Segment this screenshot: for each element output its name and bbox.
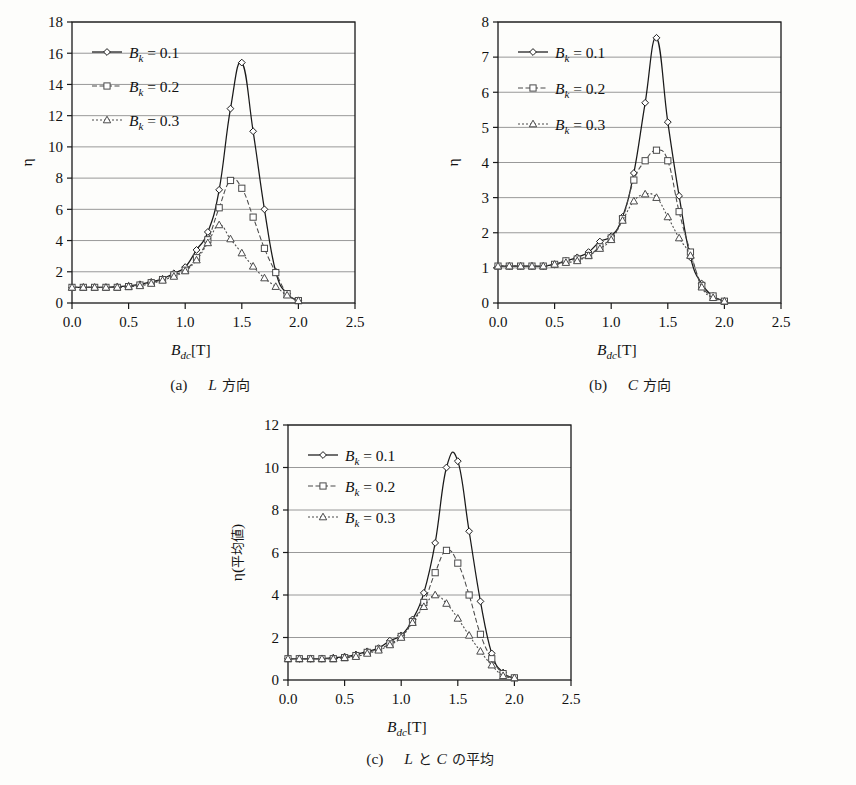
legend-item-bk02[interactable]: Bk = 0.2	[308, 478, 395, 498]
data-point-marker-triangle	[454, 615, 461, 622]
data-point-marker-diamond	[466, 528, 473, 535]
legend-label: Bk = 0.2	[129, 78, 179, 98]
x-axis-tick-label: 0.0	[63, 314, 82, 330]
x-axis: 0.00.51.01.52.02.5	[279, 680, 581, 707]
data-point-marker-triangle	[675, 234, 682, 241]
series-bk02	[495, 147, 728, 304]
y-axis: 024681012141618	[48, 14, 72, 311]
y-axis-tick-label: 12	[48, 108, 63, 124]
data-point-marker-diamond	[664, 119, 671, 126]
series-bk03	[494, 190, 728, 304]
legend: Bk = 0.1Bk = 0.2Bk = 0.3	[308, 447, 395, 529]
chart-a-svg: 0246810121416180.00.51.01.52.02.5Bdc[T]η…	[0, 0, 430, 370]
x-axis-tick-label: 1.0	[176, 314, 195, 330]
grid-lines	[498, 22, 781, 268]
x-axis-tick-label: 2.5	[562, 691, 581, 707]
data-point-marker-diamond	[477, 598, 484, 605]
x-axis-tick-label: 2.5	[346, 314, 365, 330]
data-point-marker-square	[443, 547, 449, 553]
data-point-marker-triangle	[238, 249, 245, 256]
data-point-marker-square	[239, 185, 245, 191]
y-axis-tick-label: 0	[482, 295, 490, 311]
legend-item-bk03[interactable]: Bk = 0.3	[308, 509, 395, 529]
legend-item-bk01[interactable]: Bk = 0.1	[518, 44, 605, 64]
data-point-marker-triangle	[272, 283, 279, 290]
legend-item-bk02[interactable]: Bk = 0.2	[92, 78, 179, 98]
caption-c-text-1: と	[418, 751, 432, 767]
caption-b-text: 方向	[643, 377, 671, 393]
data-point-marker-square	[653, 147, 659, 153]
legend-label: Bk = 0.1	[555, 44, 605, 64]
y-axis-tick-label: 14	[48, 77, 64, 93]
x-axis-tick-label: 1.0	[392, 691, 411, 707]
data-point-marker-square	[432, 570, 438, 576]
legend-item-bk03[interactable]: Bk = 0.3	[92, 112, 179, 132]
x-axis-title: Bdc[T]	[597, 341, 637, 361]
legend-item-bk03[interactable]: Bk = 0.3	[518, 116, 605, 136]
y-axis-tick-label: 2	[56, 264, 64, 280]
data-point-marker-diamond	[104, 49, 111, 56]
x-axis-title: Bdc[T]	[387, 718, 427, 738]
data-point-marker-triangle	[443, 600, 450, 607]
caption-c-variable-2: C	[436, 750, 448, 767]
y-axis-tick-label: 6	[482, 85, 490, 101]
y-axis-tick-label: 2	[482, 225, 490, 241]
y-axis-tick-label: 1	[482, 260, 490, 276]
legend-item-bk02[interactable]: Bk = 0.2	[518, 80, 605, 100]
x-axis-tick-label: 1.5	[232, 314, 251, 330]
caption-c: (c) L と C の平均	[270, 748, 590, 768]
chart-b-svg: 0123456780.00.51.01.52.02.5Bdc[T]ηBk = 0…	[426, 0, 856, 370]
x-axis-tick-label: 1.5	[658, 314, 677, 330]
plot-frame	[72, 22, 355, 303]
x-axis-tick-label: 2.5	[772, 314, 791, 330]
data-point-marker-square	[320, 483, 326, 489]
data-point-marker-square	[631, 177, 637, 183]
legend-item-bk01[interactable]: Bk = 0.1	[308, 447, 395, 467]
data-point-marker-diamond	[227, 105, 234, 112]
y-axis-title-text: η(平均値)	[228, 524, 246, 581]
x-axis-tick-label: 0.5	[335, 691, 354, 707]
y-axis-tick-label: 8	[272, 502, 280, 518]
data-point-marker-diamond	[432, 540, 439, 547]
y-axis-tick-label: 5	[482, 120, 490, 136]
series-group	[68, 59, 302, 304]
y-axis-title-text: η	[18, 158, 35, 166]
data-point-marker-square	[104, 83, 110, 89]
figure-root: 0246810121416180.00.51.01.52.02.5Bdc[T]η…	[0, 0, 856, 785]
y-axis-title: η	[18, 158, 35, 166]
y-axis-tick-label: 8	[56, 170, 64, 186]
caption-b-variable: C	[627, 376, 639, 393]
caption-a-variable: L	[207, 376, 218, 393]
x-axis-title: Bdc[T]	[171, 341, 211, 361]
y-axis-tick-label: 3	[482, 190, 490, 206]
data-point-marker-square	[466, 592, 472, 598]
grid-lines	[72, 22, 355, 272]
data-point-marker-square	[273, 269, 279, 275]
y-axis-title: η	[444, 158, 461, 166]
caption-c-text-2: の平均	[452, 751, 494, 767]
y-axis-title: η(平均値)	[228, 524, 246, 581]
legend-item-bk01[interactable]: Bk = 0.1	[92, 44, 179, 64]
data-point-marker-square	[227, 177, 233, 183]
x-axis-tick-label: 1.5	[448, 691, 467, 707]
data-point-marker-square	[261, 245, 267, 251]
caption-a: (a) L 方向	[60, 374, 360, 394]
series-line	[72, 179, 298, 301]
y-axis-tick-label: 6	[272, 545, 280, 561]
caption-c-variable-1: L	[403, 750, 414, 767]
y-axis-tick-label: 12	[264, 417, 279, 433]
y-axis-tick-label: 16	[48, 46, 64, 62]
x-axis-title-text: Bdc[T]	[597, 341, 637, 361]
legend-label: Bk = 0.1	[345, 447, 395, 467]
data-point-marker-diamond	[676, 192, 683, 199]
x-axis-tick-label: 0.5	[119, 314, 138, 330]
legend: Bk = 0.1Bk = 0.2Bk = 0.3	[92, 44, 179, 132]
data-point-marker-triangle	[653, 194, 660, 201]
legend-label: Bk = 0.3	[555, 116, 605, 136]
data-point-marker-diamond	[443, 464, 450, 471]
plot-border	[72, 22, 355, 303]
data-point-marker-diamond	[642, 99, 649, 106]
data-point-marker-diamond	[216, 186, 223, 193]
data-point-marker-diamond	[261, 206, 268, 213]
y-axis-tick-label: 10	[48, 139, 63, 155]
